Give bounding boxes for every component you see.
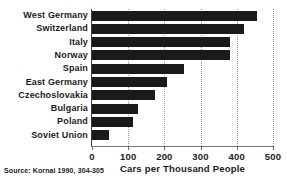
x-axis-title: Cars per Thousand People xyxy=(92,163,273,174)
x-tick-label: 500 xyxy=(253,151,287,162)
x-tick-100 xyxy=(128,146,129,150)
bar-norway xyxy=(92,50,230,60)
bar-row xyxy=(92,62,273,75)
x-tick-label: 0 xyxy=(72,151,112,162)
bar-row xyxy=(92,115,273,128)
category-label: Bulgaria xyxy=(0,103,88,113)
bar-row xyxy=(92,9,273,22)
bar-west-germany xyxy=(92,11,257,21)
category-label: Soviet Union xyxy=(0,130,88,140)
category-label: East Germany xyxy=(0,77,88,87)
bar-poland xyxy=(92,117,133,127)
category-label: Poland xyxy=(0,116,88,126)
bar-series xyxy=(92,9,273,146)
bar-bulgaria xyxy=(92,104,138,114)
category-label: Switzerland xyxy=(0,23,88,33)
category-axis-labels: West Germany Switzerland Italy Norway Sp… xyxy=(0,9,88,146)
x-tick-0 xyxy=(92,146,93,150)
x-tick-500 xyxy=(273,146,274,150)
bar-east-germany xyxy=(92,77,167,87)
bar-soviet-union xyxy=(92,130,109,140)
bar-row xyxy=(92,89,273,102)
bar-row xyxy=(92,49,273,62)
bar-spain xyxy=(92,64,184,74)
x-tick-label: 100 xyxy=(108,151,148,162)
x-tick-label: 200 xyxy=(144,151,184,162)
category-label: Norway xyxy=(0,50,88,60)
bar-italy xyxy=(92,37,230,47)
source-note: Source: Kornai 1990, 304-305 xyxy=(4,167,104,174)
x-tick-400 xyxy=(237,146,238,150)
bar-chart-figure: West Germany Switzerland Italy Norway Sp… xyxy=(0,0,287,184)
category-label: West Germany xyxy=(0,10,88,20)
bar-czechoslovakia xyxy=(92,90,155,100)
x-tick-label: 400 xyxy=(217,151,257,162)
x-tick-label: 300 xyxy=(181,151,221,162)
bar-row xyxy=(92,76,273,89)
category-label: Italy xyxy=(0,37,88,47)
bar-row xyxy=(92,129,273,142)
x-tick-300 xyxy=(201,146,202,150)
bar-switzerland xyxy=(92,24,244,34)
x-axis-line xyxy=(91,146,274,147)
bar-row xyxy=(92,22,273,35)
category-label: Spain xyxy=(0,63,88,73)
bar-row xyxy=(92,102,273,115)
x-tick-200 xyxy=(164,146,165,150)
bar-row xyxy=(92,36,273,49)
category-label: Czechoslovakia xyxy=(0,90,88,100)
